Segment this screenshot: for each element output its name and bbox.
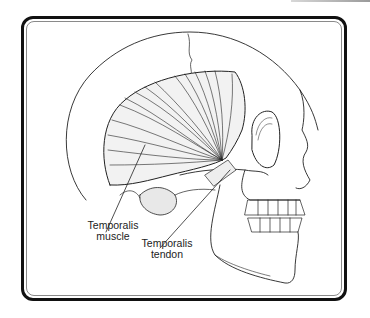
teeth (245, 200, 305, 232)
skull-illustration (0, 0, 370, 318)
coronal-suture (188, 34, 192, 78)
orbit (252, 111, 280, 168)
face-profile (296, 90, 310, 189)
ear-region (140, 188, 177, 216)
label-temporalis-tendon: Temporalis tendon (132, 238, 202, 260)
label-tendon-line2: tendon (132, 249, 202, 260)
